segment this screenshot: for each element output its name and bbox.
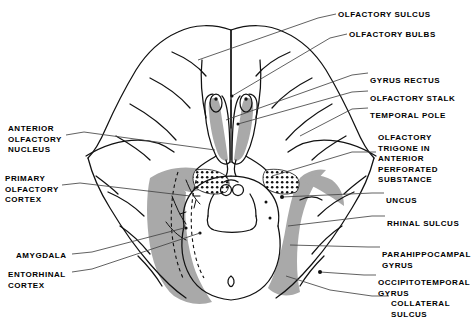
peduncle-dot-right: [265, 201, 268, 204]
leader-olfactory-sulcus: [198, 14, 336, 60]
label-primary-olfactory-cortex: PRIMARY OLFACTORY CORTEX: [5, 174, 59, 206]
leader-occipitotemporal-gyrus: [320, 272, 376, 275]
sulcus-left-2: [150, 78, 190, 108]
label-olfactory-stalk: OLFACTORY STALK: [370, 94, 455, 105]
sulcus-right-2: [272, 78, 312, 108]
anatomical-figure: OLFACTORY SULCUS OLFACTORY BULBS GYRUS R…: [0, 0, 473, 320]
dot-olfactory-bulbs: [231, 95, 234, 98]
sulcus-right-3: [286, 104, 332, 140]
label-parahippocampal-gyrus: PARAHIPPOCAMPAL GYRUS: [382, 250, 471, 271]
temporal-sulcus-right-4: [344, 176, 366, 194]
label-olfactory-sulcus: OLFACTORY SULCUS: [338, 10, 431, 21]
shade-left-olfactory-tract: [209, 98, 228, 161]
dot-occipitotemporal: [318, 270, 322, 274]
label-olfactory-bulbs: OLFACTORY BULBS: [349, 30, 436, 41]
label-occipitotemporal-gyrus: OCCIPITOTEMPORAL GYRUS: [378, 278, 470, 299]
dot-uncus: [280, 195, 284, 199]
brain-outlines: [86, 26, 376, 300]
label-olfactory-trigone: OLFACTORY TRIGONE IN ANTERIOR PERFORATED…: [378, 133, 438, 186]
leader-olfactory-bulbs: [232, 34, 347, 96]
shade-right-olfactory-tract: [234, 98, 253, 161]
label-amygdala: AMYGDALA: [16, 251, 67, 262]
olfactory-bulb-right-dot: [244, 97, 247, 100]
label-entorhinal-cortex: ENTORHINAL CORTEX: [8, 270, 66, 291]
label-collateral-sulcus: COLLATERAL SULCUS: [391, 299, 450, 320]
leader-rhinal-sulcus: [288, 216, 385, 226]
label-gyrus-rectus: GYRUS RECTUS: [370, 76, 440, 87]
peduncle-dot-right-2: [269, 217, 272, 220]
label-temporal-pole: TEMPORAL POLE: [370, 111, 446, 122]
leader-parahippocampal-gyrus: [290, 245, 380, 247]
label-anterior-olfactory-nucleus: ANTERIOR OLFACTORY NUCLEUS: [8, 124, 62, 156]
branch-dot-1: [184, 226, 187, 229]
cerebral-peduncles: [208, 194, 256, 216]
basilar-median-sulcus: [228, 276, 234, 287]
dot-olfactory-stalk: [237, 123, 240, 126]
label-uncus: UNCUS: [386, 196, 417, 207]
shade-left-piriform: [147, 178, 212, 304]
mammillary-body-right: [233, 185, 244, 196]
label-rhinal-sulcus: RHINAL SULCUS: [387, 219, 459, 230]
interpeduncular-fossa: [207, 216, 257, 232]
olfactory-bulb-left-dot: [214, 97, 217, 100]
sulcus-left-3: [130, 104, 176, 140]
leader-collateral-sulcus: [286, 276, 389, 296]
leader-anterior-olfactory-nucleus: [66, 132, 215, 150]
